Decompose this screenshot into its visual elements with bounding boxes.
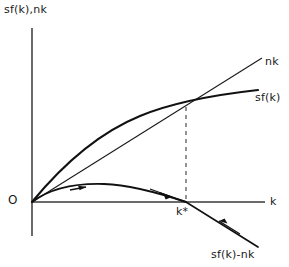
nk-line [32,58,262,202]
difference-curve-label: sf(k)-nk [211,249,254,260]
sf-k-curve-label: sf(k) [255,92,281,103]
sf-k-minus-nk-negative-segment [160,193,258,247]
x-axis-label: k [270,196,277,207]
convergence-arrow-left-1 [219,219,240,234]
solow-growth-diagram: sf(k),nk O k nk sf(k) k* sf(k)-nk [0,0,289,267]
diagram-canvas [0,0,289,267]
sf-k-minus-nk-curve [32,184,186,202]
y-axis-label: sf(k),nk [4,4,47,15]
sf-k-curve [32,90,258,202]
nk-line-label: nk [265,56,279,67]
steady-state-label: k* [176,206,188,217]
origin-label: O [8,194,18,206]
